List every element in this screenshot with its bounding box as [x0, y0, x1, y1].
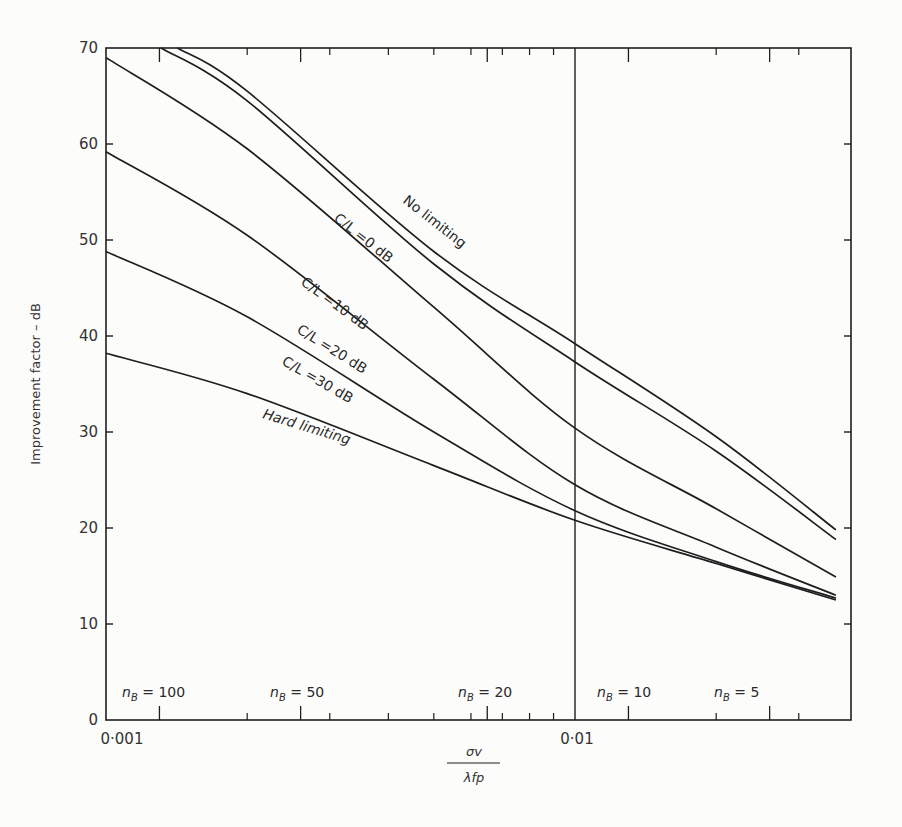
- curve-hard-limiting: [106, 353, 836, 600]
- y-tick-label: 50: [79, 231, 98, 249]
- axis-ticks: 0102030405060700·0010·01: [79, 39, 851, 748]
- y-tick-label: 20: [79, 519, 98, 537]
- nb-annotation: nB = 20: [458, 684, 512, 703]
- curve-label: Hard limiting: [261, 406, 352, 448]
- nb-annotation: nB = 5: [714, 684, 759, 703]
- x-axis-label-numerator: σv: [466, 744, 482, 759]
- chart: 0102030405060700·0010·01 No limitingC/L …: [0, 0, 902, 827]
- curve-c-l-0-db: [161, 48, 836, 540]
- curve-label: C/L =0 dB: [331, 210, 396, 266]
- x-tick-label: 0·01: [560, 730, 593, 748]
- curves: [106, 48, 836, 600]
- curve-label: No limiting: [400, 192, 470, 251]
- y-axis-label: Improvement factor – dB: [28, 303, 43, 465]
- curve-no-limiting: [177, 48, 835, 530]
- y-tick-label: 70: [79, 39, 98, 57]
- x-axis-label-denominator: λfp: [463, 770, 485, 785]
- y-tick-label: 60: [79, 135, 98, 153]
- y-tick-label: 30: [79, 423, 98, 441]
- y-tick-label: 10: [79, 615, 98, 633]
- curve-c-l-30-db: [106, 252, 836, 599]
- nb-annotations: nB = 100nB = 50nB = 20nB = 10nB = 5: [122, 684, 759, 703]
- nb-annotation: nB = 10: [597, 684, 651, 703]
- y-tick-label: 40: [79, 327, 98, 345]
- nb-annotation: nB = 100: [122, 684, 185, 703]
- y-tick-label: 0: [88, 711, 98, 729]
- x-tick-label: 0·001: [101, 730, 144, 748]
- nb-annotation: nB = 50: [270, 684, 324, 703]
- curve-labels: No limitingC/L =0 dBC/L =10 dBC/L =20 dB…: [261, 192, 470, 448]
- curve-c-l-20-db: [106, 152, 836, 596]
- curve-c-l-10-db: [106, 58, 836, 577]
